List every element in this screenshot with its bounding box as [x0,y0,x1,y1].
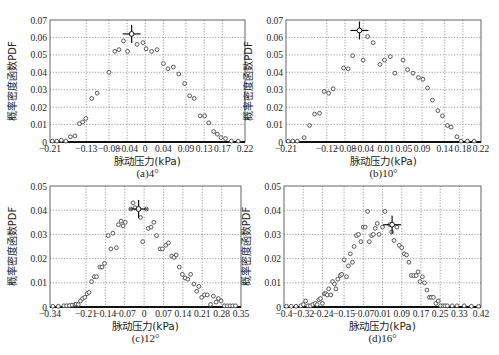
grid-lines [50,186,241,307]
figure-pdf-panels: −0.21−0.13−0.08−0.0400.040.090.130.170.2… [0,0,499,355]
axes-frame [50,186,241,307]
x-tick-label: −0.24 [311,309,333,319]
axes-frame [286,20,481,142]
y-tick-label: 0 [276,303,281,313]
x-tick-label: 0.33 [451,309,468,319]
chart-panel-c: −0.34−0.21−0.14−0.0700.070.140.210.280.3… [6,182,250,346]
y-tick-label: 0 [42,138,47,148]
grid-lines [284,186,481,307]
x-tick-label: 0.09 [414,144,431,154]
x-tick-label: 0 [143,144,148,154]
y-tick-label: 0.05 [266,50,283,60]
x-tick-label: 0.09 [178,144,195,154]
y-axis-label: 概率密度函数PDF [6,207,18,287]
y-tick-label: 0.05 [30,50,47,60]
y-tick-label: 0.05 [30,182,47,192]
x-axis-label: 脉动压力(kPa) [350,155,417,167]
y-tick-label: 0.03 [30,230,47,240]
x-tick-label: 0.22 [237,144,254,154]
y-tick-label: 0.04 [30,206,47,216]
y-tick-label: 0.04 [266,68,283,78]
y-tick-label: 0.06 [30,33,47,43]
y-tick-label: 0 [42,303,47,313]
x-axis-label: 脉动压力(kPa) [349,320,416,332]
chart-panel-a: −0.21−0.13−0.08−0.0400.040.090.130.170.2… [6,16,254,181]
y-tick-label: 0.01 [30,120,47,130]
y-axis-label: 概率密度函数PDF [6,41,18,121]
x-tick-label: 0.42 [473,309,490,319]
y-tick-label: 0.02 [266,103,283,113]
y-tick-label: 0.07 [266,16,283,26]
y-tick-label: 0.04 [30,68,47,78]
y-axis-label: 概率密度函数PDF [242,41,254,121]
y-tick-label: 0.07 [30,16,47,26]
panel-caption: (b)10° [369,167,397,180]
x-tick-label: 0.25 [432,309,449,319]
y-tick-label: 0.01 [266,120,283,130]
x-axis-label: 脉动压力(kPa) [112,320,179,332]
y-tick-label: 0 [278,138,283,148]
x-tick-label: 0.13 [196,144,213,154]
x-tick-label: 0.35 [233,309,250,319]
x-tick-label: 0.04 [155,144,172,154]
y-tick-label: 0.04 [264,206,281,216]
y-tick-label: 0.01 [264,278,281,288]
x-tick-label: 0.14 [436,144,453,154]
grid-lines [286,20,481,142]
y-tick-label: 0.03 [264,230,281,240]
peak-crosshair-marker [383,216,401,234]
x-tick-label: 0 [142,309,147,319]
axes-frame [284,186,481,307]
x-tick-label: 0.01 [374,309,391,319]
x-tick-label: 0.22 [473,144,490,154]
x-tick-label: 0.17 [214,144,231,154]
x-tick-label: −0.04 [352,144,374,154]
x-tick-label: 0.09 [393,309,410,319]
x-tick-label: 0.14 [175,309,192,319]
x-tick-label: 0.01 [377,144,394,154]
x-tick-label: −0.07 [352,309,374,319]
y-tick-label: 0.02 [30,103,47,113]
x-tick-label: −0.07 [114,309,136,319]
y-tick-label: 0.01 [30,278,47,288]
y-axis-label: 概率密度函数PDF [240,207,252,287]
y-tick-label: 0.06 [266,33,283,43]
x-tick-label: 0.07 [155,309,172,319]
y-tick-label: 0.02 [30,254,47,264]
y-tick-label: 0.05 [264,182,281,192]
x-tick-label: 0.28 [213,309,230,319]
x-tick-label: 0.05 [396,144,413,154]
panel-caption: (c)12° [132,332,160,345]
x-tick-label: 0.18 [455,144,472,154]
y-tick-label: 0.03 [30,85,47,95]
y-tick-label: 0.02 [264,254,281,264]
chart-panel-b: −0.21−0.12−0.08−0.040.010.050.090.140.18… [242,16,490,181]
y-tick-label: 0.03 [266,85,283,95]
panel-caption: (a)4° [136,167,158,180]
x-tick-label: 0.17 [413,309,430,319]
data-points [286,35,476,143]
x-tick-label: 0.21 [194,309,211,319]
x-tick-label: −0.04 [116,144,138,154]
panel-caption: (d)16° [368,332,396,345]
chart-panel-d: −0.4−0.32−0.24−0.15−0.070.010.090.170.25… [240,182,490,346]
x-tick-label: −0.13 [75,144,97,154]
x-axis-label: 脉动压力(kPa) [114,155,181,167]
